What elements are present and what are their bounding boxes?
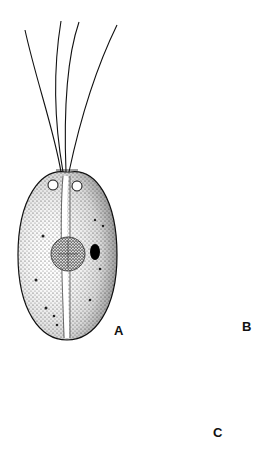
flagella-a	[25, 21, 117, 172]
panel-label-c: C	[213, 426, 222, 439]
eyespot-a	[90, 244, 100, 260]
panel-label-b: B	[242, 320, 251, 333]
vacuole-a-right	[72, 181, 82, 191]
panel-label-a: A	[114, 324, 123, 337]
figure-canvas	[0, 0, 265, 455]
vacuole-a-left	[48, 180, 58, 190]
panel-a-cell	[18, 21, 117, 340]
